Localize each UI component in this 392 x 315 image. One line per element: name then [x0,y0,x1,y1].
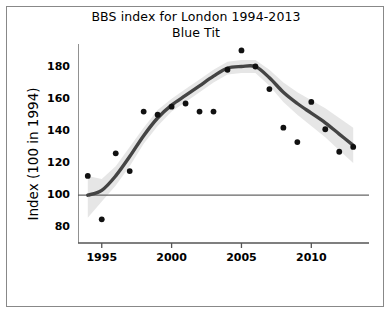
y-tick-label: 100 [36,188,70,201]
data-point [155,112,161,118]
confidence-band [88,60,353,218]
data-point [197,109,203,115]
y-tick-label: 120 [36,156,70,169]
y-tick-label: 140 [36,124,70,137]
x-tick-label: 2000 [150,251,194,264]
data-point [308,99,314,105]
data-point [239,48,245,54]
data-point [253,64,259,70]
data-point [141,109,147,115]
trend-line-group [88,66,353,196]
plot-area [78,44,373,277]
chart-subtitle: Blue Tit [0,25,392,40]
chart-title: BBS index for London 1994-2013 [0,9,392,24]
chart-figure: BBS index for London 1994-2013 Blue Tit … [0,0,392,315]
y-tick-label: 160 [36,92,70,105]
data-point [225,67,231,73]
x-tick-label: 2005 [219,251,263,264]
data-point [127,168,133,174]
data-point [211,109,217,115]
x-tick-label: 2010 [289,251,333,264]
data-point [113,150,119,156]
data-point [99,216,105,222]
data-point [183,101,189,107]
data-point [336,149,342,155]
data-point [322,126,328,132]
data-point [280,125,286,131]
data-point [169,104,175,110]
plot-svg [78,44,373,277]
data-point [85,173,91,179]
data-point [267,86,273,92]
x-tick-label: 1995 [80,251,124,264]
y-tick-label: 80 [36,220,70,233]
y-tick-label: 180 [36,60,70,73]
data-point [350,144,356,150]
data-point [294,139,300,145]
